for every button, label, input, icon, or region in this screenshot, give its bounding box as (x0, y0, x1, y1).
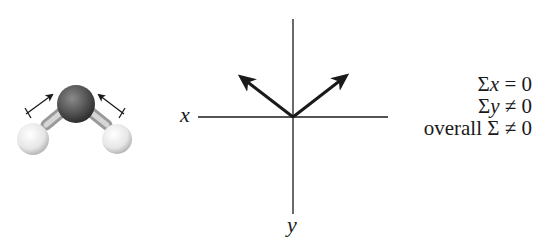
equation-overall-sum: overall Σ ≠ 0 (424, 117, 532, 139)
variable-x: x (490, 72, 499, 96)
y-axis-label: y (287, 212, 297, 238)
equation-rhs: ≠ 0 (499, 94, 532, 118)
vector-arrow-right (293, 76, 346, 117)
dipole-arrow-left (25, 95, 52, 118)
hydrogen-atom-right (102, 124, 132, 154)
sigma-symbol: Σ (478, 94, 490, 118)
x-axis-label: x (180, 102, 190, 128)
overall-label: overall (424, 116, 488, 140)
equation-sum-x: Σx = 0 (478, 73, 532, 95)
vector-arrow-left (241, 77, 293, 117)
oxygen-atom (57, 85, 95, 123)
hydrogen-atom-left (17, 123, 49, 155)
water-molecule (17, 85, 132, 155)
dipole-arrow-right (99, 95, 125, 118)
equation-sum-y: Σy ≠ 0 (478, 95, 532, 117)
equation-rhs: = 0 (499, 72, 532, 96)
sigma-symbol: Σ (478, 72, 490, 96)
equation-rhs: Σ ≠ 0 (487, 116, 532, 140)
